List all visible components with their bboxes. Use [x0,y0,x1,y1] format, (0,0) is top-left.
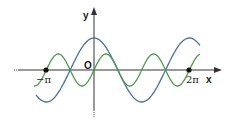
y-axis-arrow-icon [91,7,97,15]
graph-canvas: −π 2π x y O [0,0,236,123]
y-axis [91,7,97,118]
point-2pi [186,67,191,72]
origin-label: O [84,60,92,71]
tick-label-neg-pi: −π [36,74,51,85]
tick-label-2pi: 2π [186,74,199,85]
x-axis-label: x [206,74,212,85]
point-neg-pi [43,67,48,72]
x-axis-arrow-icon [214,67,222,73]
y-axis-label: y [83,10,89,21]
